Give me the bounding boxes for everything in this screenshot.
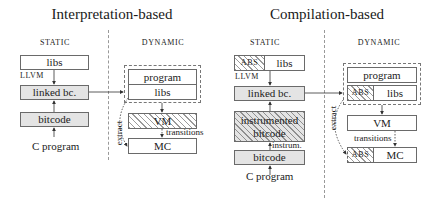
arrow-extract	[120, 98, 128, 146]
arrow-extract	[335, 100, 346, 154]
arrows-layer	[0, 0, 438, 198]
